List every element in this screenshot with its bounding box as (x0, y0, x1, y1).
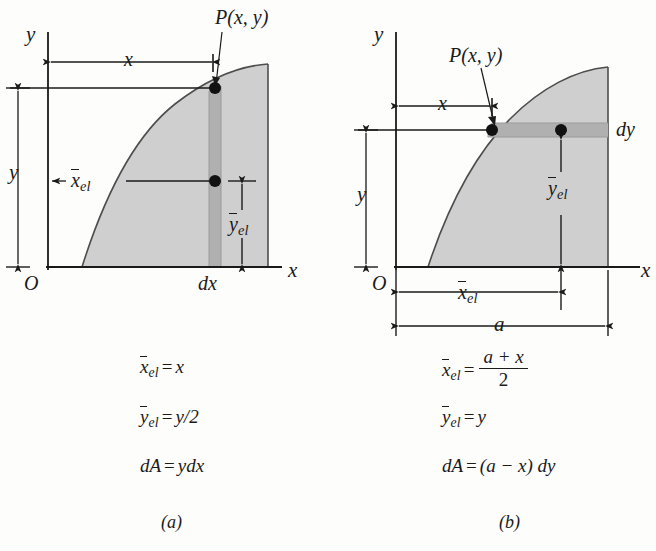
panel-b-graphics (354, 32, 640, 336)
equation-b-xel-denominator: 2 (479, 369, 527, 390)
dim-label-a-b: a (494, 312, 505, 337)
equation-a-xel-op: = (159, 356, 176, 377)
equation-b-xel: xel= a + x 2 (442, 347, 530, 390)
dim-label-xel-b: xel (458, 280, 478, 307)
figure-vector-canvas (0, 0, 656, 551)
equation-b-dA-rhs: (a − x) dy (480, 455, 556, 476)
equation-b-yel-op: = (461, 406, 478, 427)
centroid-element-figure: y x O P(x, y) x y xel yel dx y x O P(x, … (0, 0, 656, 551)
dim-label-y-b: y (357, 182, 366, 207)
dy-strip-b (487, 123, 608, 137)
dim-label-xel-b-sub: el (467, 290, 478, 306)
dim-label-yel-a-base: y (229, 212, 238, 236)
dim-label-x-a: x (124, 48, 133, 71)
dim-label-xel-a-sub: el (80, 178, 91, 194)
equation-a-dA-rhs: ydx (178, 455, 204, 476)
area-region-b (428, 67, 608, 267)
strip-label-dy-b: dy (616, 118, 635, 141)
element-centroid-dot-b (555, 124, 567, 136)
point-p-a (209, 82, 221, 94)
dim-label-xel-a: xel (71, 168, 91, 195)
dim-label-yel-b-sub: el (557, 186, 568, 202)
dim-label-xel-b-base: x (458, 280, 467, 304)
equation-b-yel-lhs: y (442, 405, 450, 428)
caption-a: (a) (161, 512, 182, 533)
equation-a-xel-lhs: x (140, 355, 148, 378)
equation-b-xel-op: = (461, 359, 478, 380)
equation-a-yel-lhs-sub: el (148, 415, 158, 430)
origin-label-a: O (24, 272, 38, 295)
dim-label-xel-a-base: x (71, 168, 80, 192)
equation-b-yel-lhs-sub: el (450, 415, 460, 430)
equation-b-dA: dA=(a − x) dy (442, 455, 555, 477)
point-label-p-b: P(x, y) (449, 44, 502, 67)
equation-a-xel: xel=x (140, 355, 184, 381)
point-label-p-a: P(x, y) (215, 6, 268, 29)
equation-b-yel: yel=y (442, 405, 486, 431)
equation-a-dA-lhs: dA (140, 455, 161, 476)
equation-a-dA: dA=ydx (140, 455, 204, 477)
equation-b-dA-lhs: dA (442, 455, 463, 476)
equation-b-xel-numerator: a + x (479, 347, 527, 369)
leader-line-b (481, 68, 494, 123)
caption-b: (b) (499, 512, 520, 533)
axis-label-y-b: y (374, 22, 383, 47)
axis-label-y-a: y (26, 22, 35, 47)
equation-b-yel-rhs: y (477, 406, 485, 427)
point-p-b (486, 124, 498, 136)
origin-label-b: O (372, 272, 386, 295)
dim-label-yel-b-base: y (548, 176, 557, 200)
equation-a-yel-rhs: y/2 (175, 406, 198, 427)
axis-label-x-b: x (641, 258, 650, 283)
axis-label-x-a: x (288, 258, 297, 283)
equation-a-yel-op: = (159, 406, 176, 427)
equation-b-xel-fraction: a + x 2 (479, 347, 527, 390)
dim-label-yel-a: yel (229, 212, 249, 239)
equation-b-xel-lhs: x (442, 358, 450, 381)
equation-a-xel-lhs-sub: el (148, 365, 158, 380)
dim-label-yel-b: yel (548, 176, 568, 203)
equation-a-yel-lhs: y (140, 405, 148, 428)
dim-label-x-b: x (438, 92, 447, 115)
equation-a-yel: yel=y/2 (140, 405, 199, 431)
equation-b-xel-lhs-sub: el (450, 368, 460, 383)
equation-b-dA-op: = (463, 455, 480, 476)
equation-a-dA-op: = (161, 455, 178, 476)
element-centroid-dot-a (209, 175, 221, 187)
dim-label-yel-a-sub: el (238, 222, 249, 238)
dim-label-y-a: y (9, 160, 18, 185)
equation-a-xel-rhs: x (175, 356, 183, 377)
strip-label-dx-a: dx (198, 272, 217, 295)
